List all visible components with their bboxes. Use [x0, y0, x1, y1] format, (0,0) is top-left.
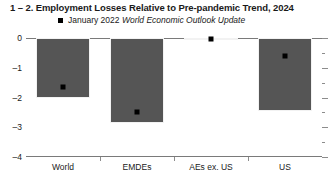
- y-axis-labels: 0–1–2–3–4: [0, 38, 22, 157]
- right-tick-minor: [322, 53, 325, 54]
- square-marker-icon: [58, 18, 63, 23]
- y-tick-label: 0: [17, 34, 22, 42]
- x-axis-category-labels: WorldEMDEsAEs ex. USUS: [26, 162, 322, 176]
- chart-title: 1 – 2. Employment Losses Relative to Pre…: [10, 2, 326, 13]
- y-tick-label: –2: [13, 94, 22, 102]
- right-tick-minor: [322, 142, 325, 143]
- legend-label-plain: January 2022: [68, 15, 122, 25]
- right-tick-major: [322, 157, 328, 158]
- right-tick-major: [322, 98, 328, 99]
- right-tick-minor: [322, 83, 325, 84]
- x-tick: [248, 157, 249, 161]
- chart-legend: January 2022 World Economic Outlook Upda…: [58, 15, 245, 25]
- x-category-label: World: [52, 162, 74, 172]
- x-category-label: EMDEs: [123, 162, 152, 172]
- marker-world: [61, 85, 66, 90]
- plot-area: [26, 38, 322, 157]
- y-tick-label: –3: [13, 123, 22, 131]
- legend-label-italic: World Economic Outlook Update: [122, 15, 245, 25]
- right-axis-ticks: [322, 38, 330, 157]
- x-tick: [100, 157, 101, 161]
- x-category-label: US: [279, 162, 291, 172]
- right-tick-major: [322, 127, 328, 128]
- marker-emdes: [135, 110, 140, 115]
- marker-aes-ex-us: [209, 37, 214, 42]
- marker-us: [283, 53, 288, 58]
- y-tick-label: –4: [13, 153, 22, 161]
- bar-us: [258, 38, 312, 111]
- y-tick-label: –1: [13, 64, 22, 72]
- x-category-label: AEs ex. US: [189, 162, 232, 172]
- right-tick-major: [322, 38, 328, 39]
- right-tick-major: [322, 68, 328, 69]
- legend-item-label: January 2022 World Economic Outlook Upda…: [68, 15, 245, 25]
- x-tick: [174, 157, 175, 161]
- chart-figure: 1 – 2. Employment Losses Relative to Pre…: [0, 0, 330, 180]
- right-tick-minor: [322, 112, 325, 113]
